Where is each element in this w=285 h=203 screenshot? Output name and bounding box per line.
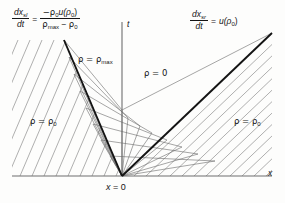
right-formula-equals: = — [211, 16, 216, 26]
right-formula-lhs: dxsr dt — [190, 10, 208, 32]
rho-zero-region-label: ρ = 0 — [144, 68, 167, 78]
right-formula-rhs: u(ρ0) — [219, 16, 238, 26]
rho-max-region-label: ρ = ρmax — [78, 54, 113, 64]
diagram-canvas — [0, 0, 285, 203]
left-formula-lhs: dxsl dt — [12, 8, 29, 30]
rho-initial-left-region-label: ρ = ρ0 — [30, 116, 57, 126]
left-formula-equals: = — [32, 14, 37, 24]
x-axis-label: x — [268, 168, 272, 178]
rho-initial-right-region-label: ρ = ρ0 — [234, 116, 261, 126]
figure-container: dxsl dt = −ρ0u(ρ0) ρmax − ρ0 dxsr dt = u… — [0, 0, 285, 203]
t-axis-label: t — [127, 19, 129, 29]
left-shock-speed-formula: dxsl dt = −ρ0u(ρ0) ρmax − ρ0 — [12, 8, 80, 30]
right-shock-speed-formula: dxsr dt = u(ρ0) — [190, 10, 238, 32]
left-formula-rhs: −ρ0u(ρ0) ρmax − ρ0 — [40, 8, 79, 30]
origin-label: x = 0 — [106, 182, 126, 192]
